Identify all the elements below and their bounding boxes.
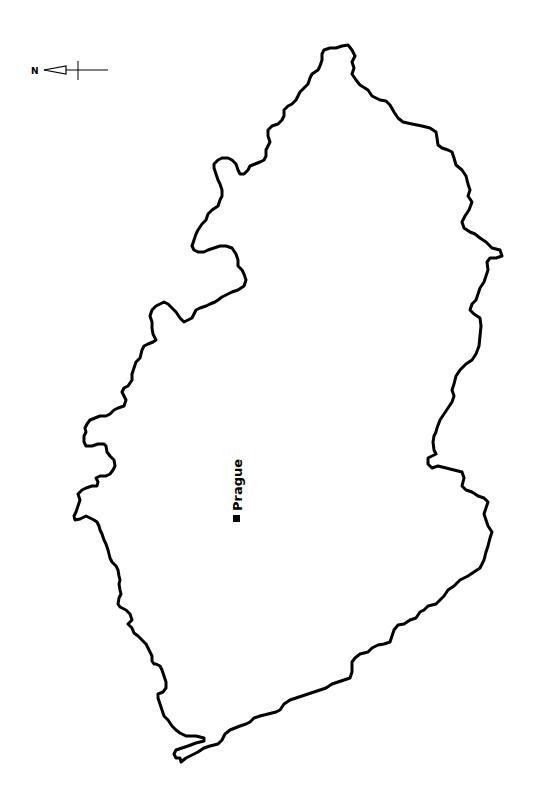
north-arrow-icon: N <box>31 61 108 80</box>
country-border-outline <box>74 45 502 762</box>
square-marker-icon <box>233 515 240 522</box>
compass-north-label: N <box>31 66 39 76</box>
map-canvas: N Prague <box>0 0 538 790</box>
city-label-prague: Prague <box>230 459 245 511</box>
compass-arrowhead <box>44 66 66 74</box>
